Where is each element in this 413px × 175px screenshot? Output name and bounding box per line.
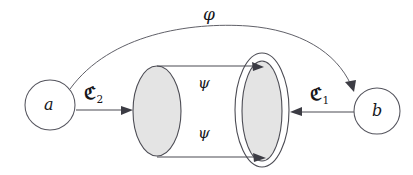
c2-arrow-group [76, 106, 133, 115]
left-cylinder-ellipse [133, 66, 181, 156]
node-b-label: b [372, 103, 382, 119]
phi-arrowhead [345, 80, 356, 92]
c2-label-main: ℭ [84, 83, 96, 103]
psi-top-label: ψ [198, 76, 210, 91]
c1-label: ℭ1 [310, 86, 329, 103]
node-a-label: a [44, 97, 54, 113]
phi-label: φ [203, 6, 215, 23]
c1-arrowhead [290, 107, 302, 116]
diagram-canvas: a b φ ψ ψ ℭ2 ℭ1 [0, 0, 413, 175]
right-object-group [235, 53, 289, 167]
left-object-group [133, 66, 181, 156]
c2-label-subscript: 2 [97, 93, 104, 105]
psi-top-arrow-group [157, 62, 264, 71]
c1-label-subscript: 1 [323, 94, 330, 106]
c1-arrow-group [290, 107, 354, 116]
phi-arrow-group [70, 25, 356, 92]
right-inner-ellipse [242, 61, 282, 161]
phi-arc-path [70, 25, 351, 89]
c1-label-main: ℭ [310, 84, 322, 104]
c2-arrowhead [121, 106, 133, 115]
psi-bottom-label: ψ [198, 126, 210, 141]
c2-label: ℭ2 [84, 85, 103, 102]
